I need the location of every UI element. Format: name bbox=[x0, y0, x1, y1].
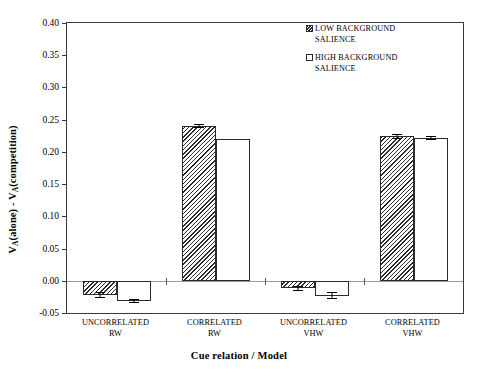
error-bar-cap-top bbox=[129, 299, 139, 300]
y-axis-tick bbox=[62, 87, 67, 88]
error-bar-cap-bottom bbox=[95, 297, 105, 298]
group-separator-tick bbox=[166, 278, 167, 285]
error-bar bbox=[194, 124, 204, 128]
error-bar-cap-bottom bbox=[392, 138, 402, 139]
error-bar bbox=[95, 292, 105, 298]
y-axis-tick bbox=[62, 120, 67, 121]
x-axis-category-label: CORRELATED VHW bbox=[385, 318, 440, 339]
x-axis-category-label: UNCORRELATED RW bbox=[82, 318, 149, 339]
y-axis-tick-label: 0.05 bbox=[42, 244, 59, 254]
y-axis-tick-label: 0.30 bbox=[42, 82, 59, 92]
y-axis-tick bbox=[62, 216, 67, 217]
error-bar-cap-bottom bbox=[426, 139, 436, 140]
bar bbox=[216, 139, 250, 281]
error-bar-cap-top bbox=[327, 292, 337, 293]
y-axis-tick bbox=[62, 249, 67, 250]
y-axis-tick bbox=[62, 152, 67, 153]
group-separator-tick bbox=[265, 278, 266, 285]
y-axis-tick-label: 0.10 bbox=[42, 211, 59, 221]
error-bar-cap-top bbox=[95, 292, 105, 293]
legend-item-high-background-salience: HIGH BACKGROUND SALIENCE bbox=[306, 53, 398, 74]
bar bbox=[117, 281, 151, 302]
error-bar-cap-bottom bbox=[129, 302, 139, 303]
group-separator-tick bbox=[364, 278, 365, 285]
error-bar bbox=[327, 292, 337, 300]
y-axis-tick-label: 0.35 bbox=[42, 50, 59, 60]
y-axis-tick bbox=[62, 184, 67, 185]
y-axis-tick bbox=[62, 23, 67, 24]
x-axis-category-labels: UNCORRELATED RWCORRELATED RWUNCORRELATED… bbox=[66, 318, 464, 346]
y-axis-tick-label: 0.20 bbox=[42, 147, 59, 157]
y-axis-tick-label: 0.25 bbox=[42, 115, 59, 125]
bar bbox=[182, 126, 216, 281]
error-bar-cap-top bbox=[426, 136, 436, 137]
y-axis-title-text: VA(alone) - VA(competition) bbox=[7, 125, 18, 253]
error-bar bbox=[129, 299, 139, 303]
y-axis-tick-label: 0.00 bbox=[42, 276, 59, 286]
error-bar bbox=[293, 286, 303, 291]
legend-swatch-hatched-icon bbox=[306, 25, 313, 32]
legend-item-low-background-salience: LOW BACKGROUND SALIENCE bbox=[306, 24, 398, 45]
y-axis-tick bbox=[62, 313, 67, 314]
x-axis-category-label: CORRELATED RW bbox=[187, 318, 242, 339]
error-bar-cap-top bbox=[392, 134, 402, 135]
y-axis-tick bbox=[62, 55, 67, 56]
error-bar-cap-bottom bbox=[194, 127, 204, 128]
error-bar bbox=[392, 134, 402, 139]
plot-area: -0.050.000.050.100.150.200.250.300.350.4… bbox=[66, 22, 464, 314]
chart-figure: VA(alone) - VA(competition) -0.050.000.0… bbox=[0, 0, 478, 379]
y-axis-tick bbox=[62, 281, 67, 282]
error-bar bbox=[426, 136, 436, 140]
error-bar-cap-top bbox=[194, 124, 204, 125]
y-axis-title: VA(alone) - VA(competition) bbox=[2, 0, 22, 379]
legend-swatch-white-icon bbox=[306, 54, 313, 61]
y-axis-tick-label: -0.05 bbox=[39, 308, 59, 318]
error-bar-cap-bottom bbox=[293, 290, 303, 291]
y-axis-tick-label: 0.40 bbox=[42, 18, 59, 28]
error-bar-cap-bottom bbox=[327, 298, 337, 299]
x-axis-category-label: UNCORRELATED VHW bbox=[280, 318, 347, 339]
error-bar-cap-top bbox=[293, 286, 303, 287]
bar bbox=[414, 138, 448, 281]
bar bbox=[380, 136, 414, 280]
legend-label: HIGH BACKGROUND SALIENCE bbox=[315, 53, 398, 74]
x-axis-title: Cue relation / Model bbox=[0, 350, 478, 361]
y-axis-tick-label: 0.15 bbox=[42, 179, 59, 189]
legend: LOW BACKGROUND SALIENCE HIGH BACKGROUND … bbox=[306, 24, 398, 82]
legend-label: LOW BACKGROUND SALIENCE bbox=[315, 24, 395, 45]
